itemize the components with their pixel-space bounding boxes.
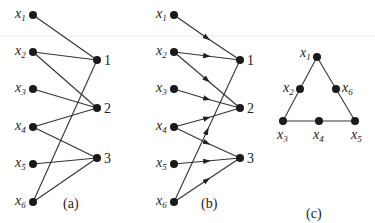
label-x5: x5: [155, 155, 167, 172]
node-1: [236, 56, 244, 64]
label-3: 3: [247, 151, 254, 166]
labels-c: x1 x2 x6 x3 x4 x5 (c): [276, 45, 362, 222]
edges-b: [174, 15, 240, 202]
node-3: [93, 154, 101, 162]
label-x3: x3: [14, 80, 26, 97]
node-x3: [29, 85, 37, 93]
label-x2: x2: [282, 80, 294, 97]
node-x5: [351, 117, 359, 125]
label-1: 1: [247, 53, 254, 68]
node-x3: [279, 117, 287, 125]
label-2: 2: [104, 101, 111, 116]
node-2: [236, 104, 244, 112]
caption-c: (c): [306, 206, 322, 222]
edges-a: [33, 15, 97, 202]
node-x6: [170, 198, 178, 206]
label-x5: x5: [14, 155, 26, 172]
node-x5: [29, 160, 37, 168]
node-x4: [29, 123, 37, 131]
node-3: [236, 154, 244, 162]
label-x3: x3: [155, 80, 167, 97]
label-x6: x6: [155, 193, 167, 210]
node-x2: [170, 48, 178, 56]
label-x1: x1: [155, 6, 167, 23]
caption-b: (b): [201, 196, 218, 212]
label-x4: x4: [312, 127, 324, 144]
nodes-a: [29, 11, 101, 206]
node-x4: [170, 123, 178, 131]
label-x2: x2: [14, 43, 26, 60]
label-x4: x4: [14, 118, 26, 135]
node-x4: [315, 117, 323, 125]
label-1: 1: [104, 53, 111, 68]
label-3: 3: [104, 151, 111, 166]
node-x6: [332, 85, 340, 93]
node-x6: [29, 198, 37, 206]
caption-a: (a): [63, 196, 79, 212]
node-x3: [170, 85, 178, 93]
label-2: 2: [247, 101, 254, 116]
node-x5: [170, 160, 178, 168]
node-1: [93, 56, 101, 64]
node-x1: [170, 11, 178, 19]
label-x6: x6: [14, 193, 26, 210]
label-x3: x3: [276, 127, 288, 144]
label-x6: x6: [341, 80, 353, 97]
label-x5: x5: [350, 127, 362, 144]
panel-b: x1 x2 x3 x4 x5 x6 1 2 3 (b): [155, 6, 254, 212]
label-x1: x1: [14, 6, 26, 23]
label-x2: x2: [155, 43, 167, 60]
node-x2: [296, 85, 304, 93]
node-x2: [29, 48, 37, 56]
panel-a: x1 x2 x3 x4 x5 x6 1 2 3 (a): [14, 6, 111, 212]
panel-c: x1 x2 x6 x3 x4 x5 (c): [276, 45, 362, 222]
node-x1: [313, 53, 321, 61]
label-x4: x4: [155, 118, 167, 135]
label-x1: x1: [299, 45, 311, 62]
node-x1: [29, 11, 37, 19]
node-2: [93, 104, 101, 112]
diagram-canvas: x1 x2 x3 x4 x5 x6 1 2 3 (a): [0, 0, 375, 223]
nodes-b: [170, 11, 244, 206]
